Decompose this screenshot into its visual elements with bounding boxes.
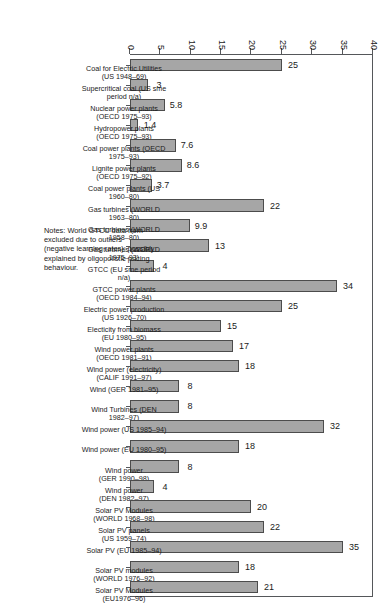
bar-value-label: 32 bbox=[330, 422, 340, 431]
bar-value-label: 9.9 bbox=[195, 221, 208, 230]
axis-tick-label: 20 bbox=[247, 40, 256, 50]
axis-tick-label: 35 bbox=[338, 40, 347, 50]
bar-value-label: 8 bbox=[187, 382, 192, 391]
bar-value-label: 13 bbox=[215, 241, 225, 250]
bar-value-label: 35 bbox=[349, 542, 359, 551]
chart-notes: Notes: World GTCC data from excluded due… bbox=[44, 226, 194, 272]
category-label: Wind power (EU 1980–95) bbox=[64, 446, 184, 454]
axis-tick-label: 15 bbox=[217, 40, 226, 50]
axis-tick-label: 40 bbox=[369, 40, 378, 50]
bar-value-label: 8 bbox=[187, 462, 192, 471]
bar-value-label: 22 bbox=[270, 201, 280, 210]
bar-value-label: 18 bbox=[245, 562, 255, 571]
bar-value-label: 25 bbox=[288, 61, 298, 70]
axis-tick-label: 10 bbox=[186, 40, 195, 50]
chart-screenshot: 0510152025303540 25Coal for Electric Uti… bbox=[0, 0, 381, 611]
bar-value-label: 8.6 bbox=[187, 161, 200, 170]
bar-value-label: 18 bbox=[245, 362, 255, 371]
category-label: Solar PV (EU 1985–94) bbox=[64, 547, 184, 555]
bar-chart: 0510152025303540 25Coal for Electric Uti… bbox=[0, 0, 381, 611]
category-label: Solar PV Modules (EU1976–96) bbox=[64, 587, 184, 604]
bar-value-label: 20 bbox=[257, 502, 267, 511]
bar-value-label: 22 bbox=[270, 522, 280, 531]
rotated-chart-canvas: 0510152025303540 25Coal for Electric Uti… bbox=[0, 0, 381, 611]
axis-tick-label: 5 bbox=[156, 45, 165, 50]
bar-value-label: 21 bbox=[264, 582, 274, 591]
axis-tick-label: 0 bbox=[126, 45, 135, 50]
bars-group: 25Coal for Electric Utilities (US 1948–6… bbox=[130, 55, 373, 597]
bar-value-label: 25 bbox=[288, 301, 298, 310]
bar-value-label: 34 bbox=[343, 281, 353, 290]
axis-tick-label: 30 bbox=[308, 40, 317, 50]
bar-value-label: 8 bbox=[187, 402, 192, 411]
bar-value-label: 18 bbox=[245, 442, 255, 451]
category-label: Wind (GER 1981–95) bbox=[64, 386, 184, 394]
axis-tick-label: 25 bbox=[277, 40, 286, 50]
category-label: Wind power (US 1985–94) bbox=[64, 426, 184, 434]
bar-value-label: 17 bbox=[239, 342, 249, 351]
bar-value-label: 15 bbox=[227, 322, 237, 331]
